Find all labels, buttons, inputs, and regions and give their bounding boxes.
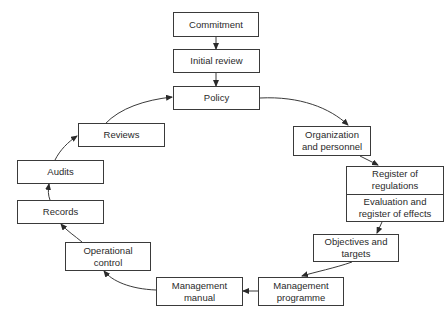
node-organization-and-personnel: Organization and personnel: [293, 126, 371, 156]
node-initial-review: Initial review: [173, 49, 260, 73]
node-management-programme: Management programme: [258, 277, 344, 306]
node-reviews: Reviews: [78, 123, 165, 147]
node-register-and-evaluation: Register of regulations Evaluation and r…: [346, 166, 444, 222]
node-label: Commitment: [189, 19, 243, 31]
node-label: Management manual: [169, 280, 230, 304]
node-management-manual: Management manual: [156, 277, 243, 306]
node-label: Register of regulations: [347, 168, 443, 192]
node-register-of-regulations: Register of regulations: [347, 167, 443, 194]
node-audits: Audits: [17, 160, 104, 184]
node-label: Operational control: [80, 245, 136, 269]
node-policy: Policy: [173, 86, 260, 110]
node-label: Policy: [204, 92, 229, 104]
node-label: Organization and personnel: [297, 129, 367, 153]
node-label: Management programme: [269, 280, 333, 304]
node-label: Audits: [47, 166, 73, 178]
node-label: Objectives and targets: [324, 236, 388, 260]
node-label: Initial review: [190, 55, 242, 67]
node-label: Records: [43, 206, 78, 218]
node-objectives-and-targets: Objectives and targets: [313, 234, 399, 262]
node-records: Records: [17, 200, 104, 224]
node-label: Reviews: [104, 129, 140, 141]
node-operational-control: Operational control: [65, 242, 151, 271]
node-label: Evaluation and register of effects: [347, 196, 443, 220]
node-commitment: Commitment: [173, 12, 259, 37]
node-evaluation-and-register-of-effects: Evaluation and register of effects: [347, 194, 443, 222]
